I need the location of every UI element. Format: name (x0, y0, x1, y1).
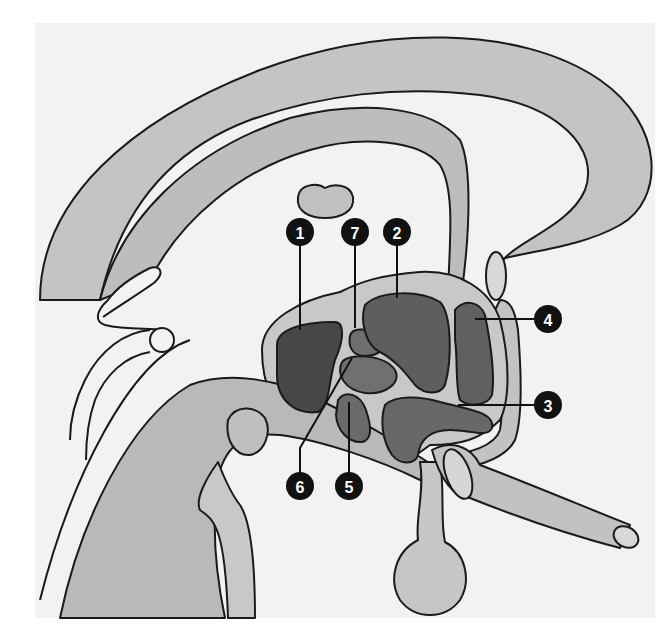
anterior-commissure (298, 185, 353, 218)
marker-3: 3 (534, 391, 562, 419)
marker-1-label: 1 (296, 225, 305, 242)
marker-5: 5 (335, 472, 363, 500)
marker-2-label: 2 (393, 225, 402, 242)
marker-6: 6 (286, 472, 314, 500)
marker-3-label: 3 (544, 398, 553, 415)
olfactory-bulb-circle (150, 328, 174, 352)
marker-1: 1 (286, 218, 314, 246)
marker-4: 4 (534, 305, 562, 333)
marker-7-label: 7 (351, 225, 360, 242)
marker-7: 7 (341, 218, 369, 246)
marker-6-label: 6 (296, 479, 305, 496)
optic-chiasm (227, 408, 267, 455)
marker-5-label: 5 (345, 479, 354, 496)
pineal-oval (486, 252, 506, 300)
marker-2: 2 (383, 218, 411, 246)
hypothalamus-diagram: 1 7 2 4 3 5 6 (0, 0, 666, 638)
marker-4-label: 4 (544, 312, 553, 329)
